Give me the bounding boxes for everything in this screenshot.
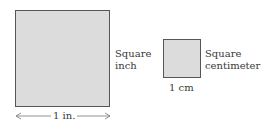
square-inch-dimension: 1 in. bbox=[51, 110, 77, 122]
square-centimeter-shape bbox=[163, 39, 201, 78]
square-inch-label: Square inch bbox=[115, 48, 151, 72]
square-centimeter-label: Square centimeter bbox=[205, 48, 260, 72]
square-centimeter-dimension: 1 cm bbox=[169, 82, 194, 94]
square-inch-shape bbox=[15, 10, 110, 107]
square-inch-label-line1: Square bbox=[115, 48, 151, 60]
square-inch-label-line2: inch bbox=[115, 60, 151, 72]
square-centimeter-label-line2: centimeter bbox=[205, 60, 260, 72]
square-centimeter-label-line1: Square bbox=[205, 48, 260, 60]
